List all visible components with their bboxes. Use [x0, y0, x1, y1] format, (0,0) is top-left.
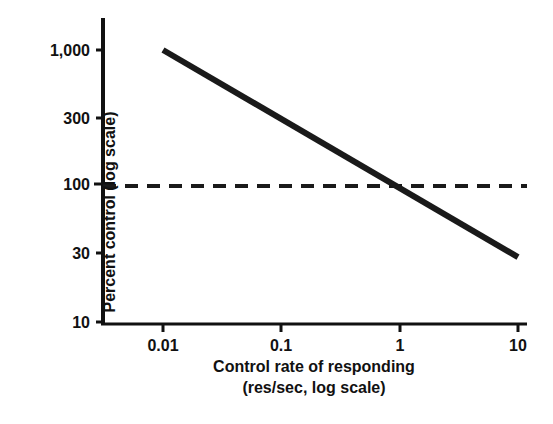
x-axis-title-line2: (res/sec, log scale)	[103, 377, 525, 398]
y-tick-label-10: 10	[28, 314, 90, 332]
x-tick-label-0-01: 0.01	[147, 337, 178, 355]
y-tick-label-1000: 1,000	[28, 42, 90, 60]
x-tick-label-0-1: 0.1	[270, 337, 292, 355]
y-axis-title: Percent control (log scale)	[101, 112, 119, 313]
x-axis-title: Control rate of responding (res/sec, log…	[103, 356, 525, 398]
y-tick-label-100: 100	[28, 176, 90, 194]
x-tick-label-10: 10	[509, 337, 527, 355]
y-tick-label-30: 30	[28, 245, 90, 263]
series-contrast-function	[163, 50, 518, 257]
x-axis-title-line1: Control rate of responding	[103, 356, 525, 377]
y-tick-label-300: 300	[28, 110, 90, 128]
x-tick-label-1: 1	[396, 337, 405, 355]
chart-figure: 1,000 300 100 30 10 0.01 0.1 1 10 Percen…	[0, 0, 553, 424]
